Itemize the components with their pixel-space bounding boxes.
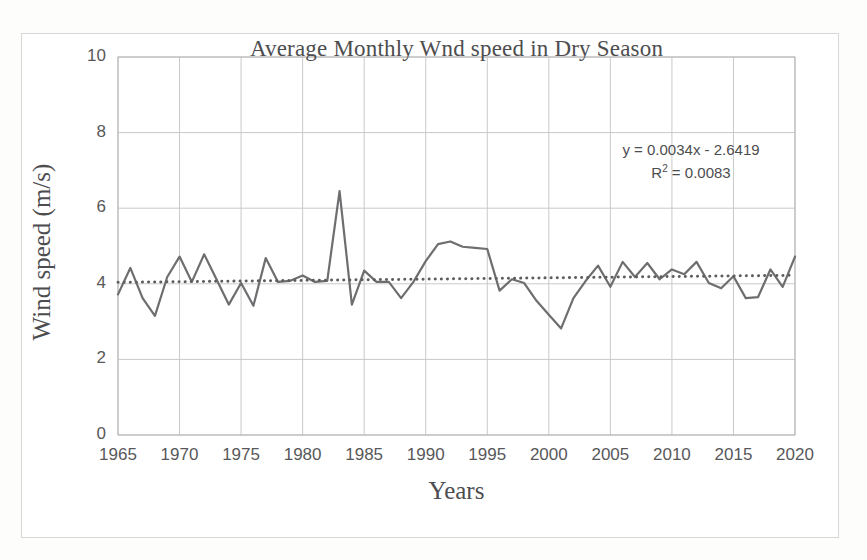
data-series-group [118, 191, 795, 328]
screenshot-canvas: Average Monthly Wnd speed in Dry Season … [0, 0, 867, 560]
x-axis-tick-label: 1965 [88, 445, 148, 465]
x-axis-tick-label: 1975 [211, 445, 271, 465]
trendline-series [118, 275, 795, 282]
x-axis-tick-label: 2015 [703, 445, 763, 465]
r-squared-text: R2 = 0.0083 [596, 161, 786, 184]
x-axis-title: Years [118, 477, 795, 505]
chart-plot-svg [0, 0, 867, 560]
plot-area-border [118, 57, 795, 435]
x-axis-tick-label: 2005 [580, 445, 640, 465]
x-axis-tick-label: 1980 [273, 445, 333, 465]
trendline-equation-annotation: y = 0.0034x - 2.6419 R2 = 0.0083 [596, 138, 786, 185]
y-axis-tick-label: 4 [66, 273, 106, 293]
y-axis-tick-label: 8 [66, 122, 106, 142]
data-line-series [118, 191, 795, 328]
r-squared-value: = 0.0083 [668, 164, 731, 181]
r-squared-prefix: R [651, 164, 662, 181]
y-axis-tick-label: 2 [66, 348, 106, 368]
chart-title: Average Monthly Wnd speed in Dry Season [118, 36, 795, 62]
y-axis-tick-label: 0 [66, 424, 106, 444]
x-axis-tick-label: 1995 [457, 445, 517, 465]
axes-group [118, 57, 795, 435]
trendline-equation-text: y = 0.0034x - 2.6419 [596, 138, 786, 161]
x-axis-tick-label: 2000 [519, 445, 579, 465]
x-axis-tick-label: 1970 [150, 445, 210, 465]
y-axis-title: Wind speed (m/s) [28, 147, 56, 357]
x-axis-tick-label: 2020 [765, 445, 825, 465]
x-axis-tick-label: 1990 [396, 445, 456, 465]
x-axis-tick-label: 1985 [334, 445, 394, 465]
x-axis-tick-label: 2010 [642, 445, 702, 465]
y-axis-tick-label: 6 [66, 197, 106, 217]
gridlines-group [118, 57, 795, 435]
y-axis-tick-label: 10 [66, 46, 106, 66]
trendline-group [118, 275, 795, 282]
